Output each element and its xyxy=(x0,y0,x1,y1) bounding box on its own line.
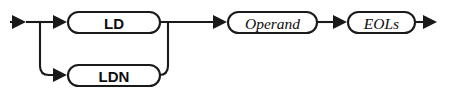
node-eols-label: EOLs xyxy=(363,15,399,32)
arrow-to-ldn-icon xyxy=(53,68,67,82)
arrow-to-eols-icon xyxy=(333,15,347,29)
arrow-to-operand-icon xyxy=(213,15,227,29)
node-operand[interactable]: Operand xyxy=(228,12,317,33)
entry-arrow-icon xyxy=(12,15,26,29)
node-ldn[interactable]: LDN xyxy=(68,65,160,86)
node-operand-label: Operand xyxy=(245,15,300,32)
exit-arrow-icon xyxy=(423,15,437,29)
track-split-down-to-ldn xyxy=(40,22,56,75)
arrow-to-ld-icon xyxy=(53,15,67,29)
node-ldn-label: LDN xyxy=(99,68,130,85)
railroad-diagram-root: LD LDN Operand EOLs xyxy=(0,0,449,94)
node-eols[interactable]: EOLs xyxy=(348,12,415,33)
railroad-diagram-canvas: LD LDN Operand EOLs xyxy=(0,0,449,94)
node-ld-label: LD xyxy=(104,15,124,32)
node-ld[interactable]: LD xyxy=(68,12,160,33)
track-ldn-up-to-merge xyxy=(159,22,168,75)
